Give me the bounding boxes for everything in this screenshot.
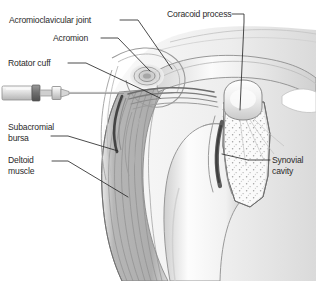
- label-subacromial-bursa: Subacromial bursa: [8, 122, 54, 143]
- label-subacromial-bursa-line1: Subacromial: [8, 122, 54, 133]
- label-acromion: Acromion: [53, 33, 88, 44]
- label-rotator-cuff: Rotator cuff: [8, 58, 50, 69]
- label-synovial-line2: cavity: [272, 166, 303, 177]
- label-deltoid-muscle: Deltoid muscle: [8, 155, 34, 176]
- label-synovial-cavity: Synovial cavity: [272, 155, 303, 176]
- humeral-head-cap: [224, 80, 262, 120]
- label-synovial-line1: Synovial: [272, 155, 303, 166]
- label-deltoid-line2: muscle: [8, 166, 34, 177]
- label-deltoid-line1: Deltoid: [8, 155, 34, 166]
- shoulder-anatomy-figure: Acromioclavicular joint Acromion Rotator…: [0, 0, 316, 281]
- label-subacromial-bursa-line2: bursa: [8, 133, 54, 144]
- syringe: [2, 85, 124, 101]
- label-coracoid-process: Coracoid process: [167, 9, 231, 20]
- label-acromioclavicular-joint: Acromioclavicular joint: [9, 15, 91, 26]
